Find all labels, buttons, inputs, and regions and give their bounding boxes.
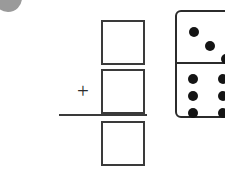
domino-pip-bottom-3 [188,91,198,101]
domino-bottom-half [177,64,225,116]
domino-pip-top-1 [189,27,199,37]
domino-pip-top-2 [205,41,215,51]
domino-pip-bottom-5 [188,108,198,118]
addend-1-box[interactable] [101,20,145,65]
domino-pip-bottom-4 [218,91,225,101]
domino-top-half [177,12,225,64]
sum-divider-rule [59,114,147,116]
vertical-addition-problem [101,20,147,167]
domino-tile [175,10,225,118]
sum-box[interactable] [101,121,145,166]
domino-pip-bottom-6 [218,108,225,118]
domino-pip-top-3 [221,54,225,64]
scan-corner-smudge [0,0,22,12]
addend-2-box[interactable] [101,69,145,114]
worksheet-canvas: + [0,0,225,176]
domino-pip-bottom-2 [218,74,225,84]
domino-pip-bottom-1 [188,74,198,84]
plus-operator-icon: + [74,82,92,100]
